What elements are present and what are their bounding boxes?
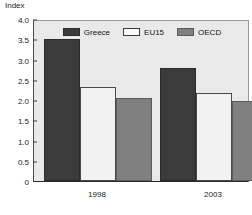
y-axis-title: Index xyxy=(5,1,25,10)
legend-item-greece[interactable]: Greece xyxy=(63,28,110,37)
bar-greece-2003[interactable] xyxy=(160,68,196,181)
y-tick-mark xyxy=(33,60,37,61)
legend-item-eu15[interactable]: EU15 xyxy=(123,28,164,37)
x-axis-label-2003: 2003 xyxy=(204,190,222,199)
y-tick-label: 4.0 xyxy=(18,16,29,25)
legend-swatch-icon xyxy=(123,28,140,36)
y-tick-mark xyxy=(33,101,37,102)
y-axis-tick-labels: 4.03.53.02.52.01.51.00.50 xyxy=(0,20,29,182)
y-tick-label: 2.0 xyxy=(18,97,29,106)
y-tick-label: 0.5 xyxy=(18,157,29,166)
legend-swatch-icon xyxy=(63,28,80,36)
y-tick-label: 1.5 xyxy=(18,117,29,126)
legend-item-oecd[interactable]: OECD xyxy=(177,28,221,37)
y-tick-mark xyxy=(33,141,37,142)
legend-label: Greece xyxy=(84,28,110,37)
legend-label: OECD xyxy=(198,28,221,37)
y-tick-label: 1.0 xyxy=(18,137,29,146)
y-tick-mark xyxy=(33,20,37,21)
x-axis-label-1998: 1998 xyxy=(88,190,106,199)
plot-inner: GreeceEU15OECD xyxy=(34,21,248,181)
y-tick-mark xyxy=(33,121,37,122)
plot-area: GreeceEU15OECD xyxy=(33,20,249,182)
y-tick-mark xyxy=(33,161,37,162)
bar-greece-1998[interactable] xyxy=(44,39,80,181)
y-tick-mark xyxy=(33,40,37,41)
bar-eu15-1998[interactable] xyxy=(80,87,116,181)
y-tick-label: 3.5 xyxy=(18,36,29,45)
y-tick-label: 3.0 xyxy=(18,56,29,65)
y-tick-mark xyxy=(33,80,37,81)
y-tick-label: 2.5 xyxy=(18,76,29,85)
bar-oecd-2003[interactable] xyxy=(232,101,252,181)
legend-swatch-icon xyxy=(177,28,194,36)
y-tick-label: 0 xyxy=(25,178,29,187)
legend-label: EU15 xyxy=(144,28,164,37)
bar-oecd-1998[interactable] xyxy=(116,98,152,181)
bar-chart: Index 4.03.53.02.52.01.51.00.50 GreeceEU… xyxy=(0,0,252,215)
bar-eu15-2003[interactable] xyxy=(196,93,232,181)
